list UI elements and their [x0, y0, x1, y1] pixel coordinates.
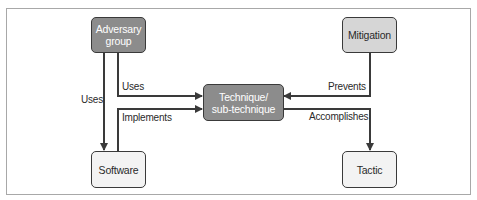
edge-label-accomplishes: Accomplishes: [309, 111, 368, 123]
edge-label-uses-software: Uses: [81, 94, 103, 106]
node-technique-label: Technique/ sub-technique: [212, 91, 275, 115]
edge-label-prevents: Prevents: [328, 81, 366, 93]
edge-label-implements: Implements: [122, 112, 172, 124]
edge-label-uses-technique: Uses: [122, 81, 144, 93]
node-adversary-group-label: Adversary group: [96, 23, 141, 47]
node-tactic-label: Tactic: [357, 164, 383, 176]
node-software: Software: [91, 151, 146, 188]
node-adversary-group: Adversary group: [91, 17, 146, 53]
node-tactic: Tactic: [342, 151, 397, 188]
node-software-label: Software: [99, 164, 139, 176]
node-mitigation-label: Mitigation: [348, 29, 391, 41]
node-mitigation: Mitigation: [342, 17, 397, 53]
node-technique: Technique/ sub-technique: [203, 84, 284, 121]
